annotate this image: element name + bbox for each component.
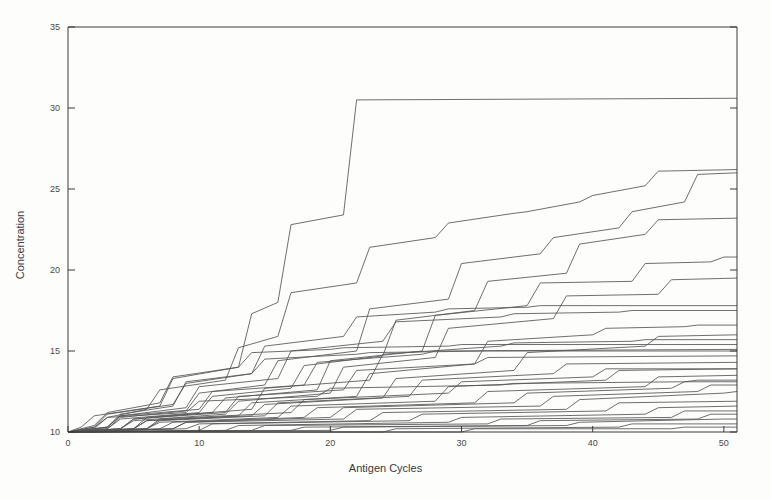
series-line	[68, 218, 737, 432]
y-axis-title: Concentration	[14, 180, 34, 310]
y-tick-label: 25	[50, 184, 60, 194]
tick-label-group: 01020304050101520253035	[50, 22, 729, 448]
x-tick-label: 10	[194, 438, 204, 448]
x-axis-title: Antigen Cycles	[0, 462, 771, 474]
y-tick-label: 20	[50, 265, 60, 275]
y-tick-label: 10	[50, 427, 60, 437]
series-group	[68, 98, 737, 432]
chart-page: 01020304050101520253035 Concentration An…	[0, 0, 771, 500]
y-tick-label: 35	[50, 22, 60, 32]
axis-group	[68, 27, 737, 432]
x-tick-label: 30	[457, 438, 467, 448]
x-tick-label: 20	[325, 438, 335, 448]
y-tick-label: 15	[50, 346, 60, 356]
x-tick-label: 40	[588, 438, 598, 448]
x-tick-label: 50	[719, 438, 729, 448]
plot-frame	[68, 27, 737, 432]
series-line	[68, 173, 737, 432]
y-axis-title-text: Concentration	[14, 180, 34, 310]
series-line	[68, 170, 737, 432]
chart-canvas: 01020304050101520253035	[0, 0, 771, 500]
y-tick-label: 30	[50, 103, 60, 113]
tick-group	[68, 27, 737, 432]
x-tick-label: 0	[65, 438, 70, 448]
